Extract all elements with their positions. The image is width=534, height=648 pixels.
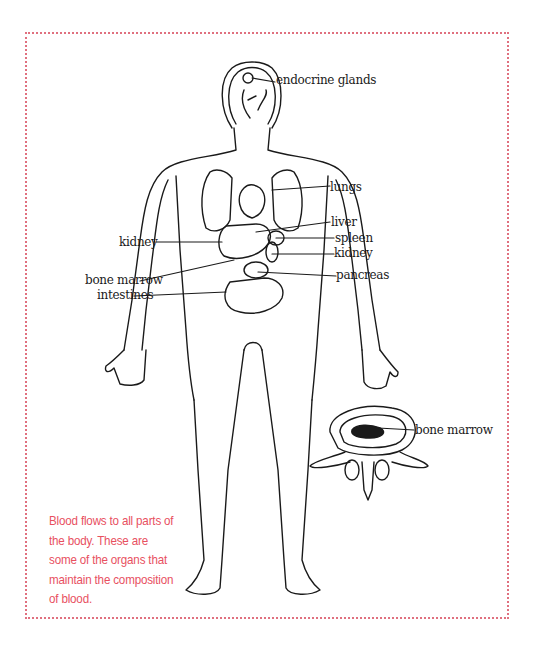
label-intestines: intestines: [97, 288, 153, 302]
torso-outline: [124, 128, 380, 400]
label-bone-marrow-vertebra: bone marrow: [415, 423, 493, 437]
label-kidney-right: kidney: [119, 235, 158, 249]
label-spleen: spleen: [335, 231, 373, 245]
caption-text: Blood flows to all parts of the body. Th…: [49, 511, 178, 609]
label-bone-marrow-body: bone marrow: [85, 273, 163, 287]
label-liver: liver: [331, 215, 357, 229]
label-endocrine-glands: endocrine glands: [276, 73, 376, 87]
head: [222, 62, 281, 128]
label-pancreas: pancreas: [336, 268, 389, 282]
organs: [202, 73, 302, 313]
legs: [186, 343, 320, 595]
label-lungs: lungs: [330, 180, 362, 194]
label-kidney-left: kidney: [334, 246, 373, 260]
hands: [105, 350, 398, 389]
vertebra-illustration: [310, 406, 428, 500]
